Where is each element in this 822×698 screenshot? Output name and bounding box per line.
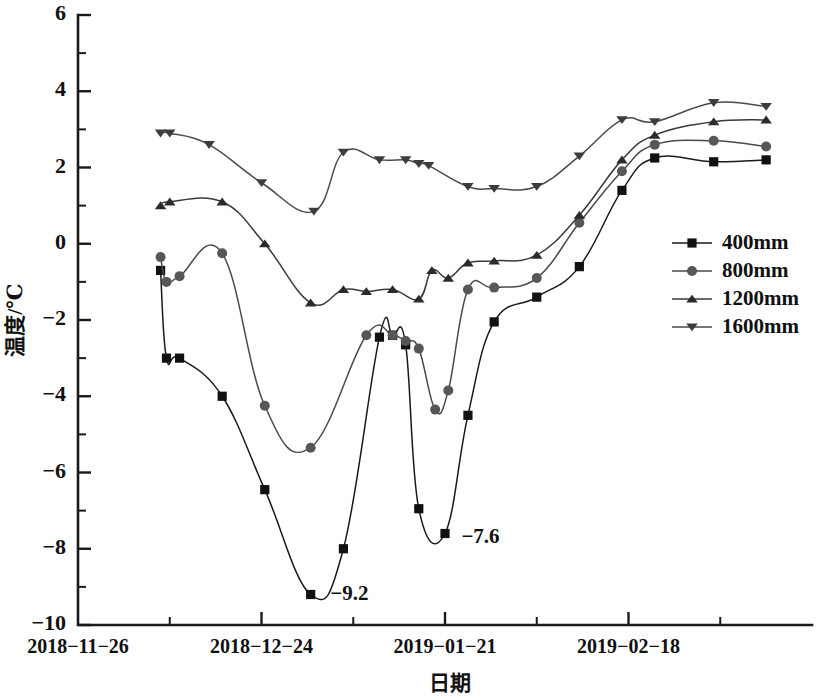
- data-point-400mm: [440, 529, 449, 538]
- data-point-800mm: [388, 330, 398, 340]
- legend-label: 400mm: [722, 230, 789, 254]
- legend: 400mm800mm1200mm1600mm: [672, 230, 799, 338]
- x-tick-label: 2019−02−18: [577, 635, 680, 657]
- data-point-1600mm: [616, 116, 628, 124]
- legend-marker-800mm: [687, 266, 697, 276]
- y-tick-label: −4: [42, 381, 66, 406]
- x-tick-label: 2019−01−21: [394, 635, 497, 657]
- y-tick-label: 0: [55, 229, 66, 254]
- data-annotation: −9.2: [330, 581, 368, 605]
- data-point-400mm: [762, 155, 771, 164]
- data-point-800mm: [617, 166, 627, 176]
- y-tick-label: 2: [55, 153, 66, 178]
- data-point-800mm: [650, 140, 660, 150]
- data-point-400mm: [617, 186, 626, 195]
- data-point-1600mm: [338, 149, 350, 157]
- data-point-1600mm: [531, 183, 543, 191]
- data-point-800mm: [156, 252, 166, 262]
- x-axis-ticks: [170, 612, 721, 625]
- data-point-400mm: [490, 317, 499, 326]
- data-point-400mm: [709, 157, 718, 166]
- data-point-1200mm: [259, 239, 271, 247]
- data-point-400mm: [463, 411, 472, 420]
- legend-item-400mm[interactable]: 400mm: [672, 230, 789, 254]
- data-point-800mm: [489, 283, 499, 293]
- data-point-400mm: [650, 153, 659, 162]
- data-point-400mm: [162, 354, 171, 363]
- legend-label: 1200mm: [722, 286, 799, 310]
- data-point-800mm: [401, 336, 411, 346]
- data-point-1200mm: [574, 211, 586, 219]
- data-point-1200mm: [649, 131, 661, 139]
- series-1200mm: [155, 116, 772, 307]
- x-tick-label: 2018−11−26: [27, 635, 129, 657]
- data-point-800mm: [175, 271, 185, 281]
- data-point-800mm: [217, 248, 227, 258]
- legend-item-1600mm[interactable]: 1600mm: [672, 314, 799, 338]
- data-point-400mm: [260, 485, 269, 494]
- data-point-400mm: [175, 354, 184, 363]
- x-tick-label: 2018−12−24: [210, 635, 313, 657]
- data-point-400mm: [306, 590, 315, 599]
- series-line-800mm: [161, 140, 767, 452]
- y-tick-label: 4: [55, 76, 66, 101]
- data-point-800mm: [709, 136, 719, 146]
- annotations-group: −9.2−7.6: [330, 524, 499, 605]
- data-point-400mm: [575, 262, 584, 271]
- data-point-1600mm: [423, 162, 435, 170]
- data-point-800mm: [306, 443, 316, 453]
- data-point-800mm: [430, 405, 440, 415]
- chart-container: 6420−2−4−6−8−10 2018−11−262018−12−242019…: [0, 0, 822, 698]
- y-tick-label: −10: [31, 610, 66, 635]
- data-point-1600mm: [155, 130, 167, 138]
- data-point-800mm: [463, 285, 473, 295]
- line-chart: 6420−2−4−6−8−10 2018−11−262018−12−242019…: [0, 0, 822, 698]
- data-point-800mm: [443, 386, 453, 396]
- y-axis-tick-labels: 6420−2−4−6−8−10: [31, 0, 66, 635]
- legend-label: 1600mm: [722, 314, 799, 338]
- data-point-400mm: [375, 333, 384, 342]
- legend-label: 800mm: [722, 258, 789, 282]
- y-tick-label: −2: [42, 305, 66, 330]
- data-point-800mm: [161, 277, 171, 287]
- data-point-400mm: [339, 544, 348, 553]
- data-point-1600mm: [760, 103, 772, 111]
- data-point-1200mm: [616, 156, 628, 164]
- data-point-1200mm: [216, 198, 228, 206]
- data-point-1600mm: [462, 183, 474, 191]
- data-point-800mm: [414, 344, 424, 354]
- x-axis-title: 日期: [429, 671, 471, 695]
- series-line-1200mm: [161, 120, 767, 305]
- x-axis-tick-labels: 2018−11−262018−12−242019−01−212019−02−18: [27, 635, 680, 657]
- data-annotation: −7.6: [461, 524, 499, 548]
- data-point-400mm: [218, 392, 227, 401]
- y-axis-ticks: [78, 15, 91, 625]
- y-tick-label: −6: [42, 458, 66, 483]
- legend-marker-400mm: [687, 238, 696, 247]
- data-point-800mm: [532, 273, 542, 283]
- y-tick-label: −8: [42, 534, 66, 559]
- legend-item-1200mm[interactable]: 1200mm: [672, 286, 799, 310]
- data-point-400mm: [532, 293, 541, 302]
- legend-item-800mm[interactable]: 800mm: [672, 258, 789, 282]
- y-axis-title: 温度/℃: [3, 284, 27, 357]
- data-point-800mm: [361, 330, 371, 340]
- y-tick-label: 6: [55, 0, 66, 25]
- data-point-800mm: [260, 401, 270, 411]
- data-point-400mm: [414, 504, 423, 513]
- data-point-800mm: [761, 142, 771, 152]
